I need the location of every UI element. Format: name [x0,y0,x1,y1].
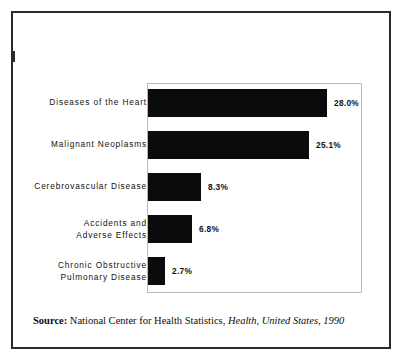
bar-value-label: 2.7% [172,266,192,276]
figure-frame: Diseases of the Heart 28.0% Malignant Ne… [11,11,391,349]
bar-track: 6.8% [148,215,362,243]
bar-value-label: 25.1% [316,140,341,150]
bar-category-label: Diseases of the Heart [21,97,147,109]
bar-category-label: Chronic Obstructive Pulmonary Disease [21,260,147,283]
bar-fill [148,257,165,285]
bar-track: 28.0% [148,89,362,117]
bar-fill [148,215,192,243]
bar-value-label: 28.0% [334,98,359,108]
bar-row: Accidents and Adverse Effects 6.8% [13,215,389,243]
bar-chart: Diseases of the Heart 28.0% Malignant Ne… [13,13,389,305]
bar-row: Malignant Neoplasms 25.1% [13,131,389,159]
bar-track: 8.3% [148,173,362,201]
source-label: Source: [33,315,67,326]
bar-track: 2.7% [148,257,362,285]
bar-track: 25.1% [148,131,362,159]
bars-layer: Diseases of the Heart 28.0% Malignant Ne… [13,83,389,293]
source-agency: National Center for Health Statistics, [70,315,225,326]
bar-row: Diseases of the Heart 28.0% [13,89,389,117]
source-publication: Health, United States, 1990 [228,315,344,326]
bar-fill [148,89,327,117]
bar-fill [148,173,201,201]
bar-row: Chronic Obstructive Pulmonary Disease 2.… [13,257,389,285]
bar-row: Cerebrovascular Disease 8.3% [13,173,389,201]
bar-category-label: Cerebrovascular Disease [21,181,147,193]
bar-value-label: 6.8% [199,224,219,234]
bar-fill [148,131,309,159]
bar-category-label: Accidents and Adverse Effects [21,218,147,241]
bar-category-label: Malignant Neoplasms [21,139,147,151]
source-note: Source: National Center for Health Stati… [33,315,378,326]
bar-value-label: 8.3% [208,182,228,192]
